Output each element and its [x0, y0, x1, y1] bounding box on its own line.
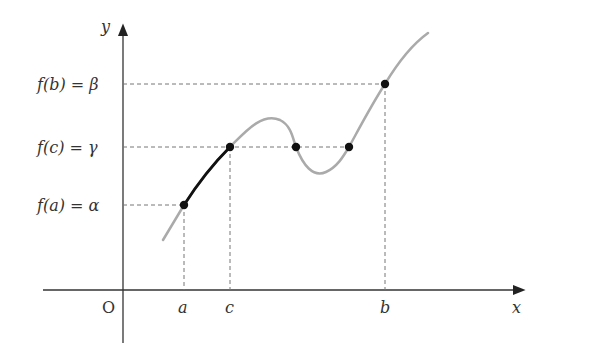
point-p1 — [292, 143, 300, 151]
y-tick-fa: f(a) = α — [36, 196, 100, 215]
highlighted-segment — [184, 147, 230, 205]
x-tick-b: b — [380, 298, 390, 317]
x-tick-a: a — [178, 298, 188, 317]
y-tick-fb: f(b) = β — [36, 75, 98, 94]
graph-diagram: y x O a c b f(b) = β f(c) = γ f(a) = α — [0, 0, 594, 354]
y-axis-label: y — [100, 17, 111, 36]
x-axis-label: x — [512, 298, 521, 317]
guide-lines — [123, 84, 385, 290]
point-a — [180, 201, 188, 209]
points — [180, 80, 389, 209]
point-c — [226, 143, 234, 151]
origin-label: O — [102, 298, 115, 317]
point-b — [381, 80, 389, 88]
function-curve — [163, 33, 428, 240]
point-p2 — [345, 143, 353, 151]
y-tick-fc: f(c) = γ — [36, 138, 98, 157]
x-tick-c: c — [225, 298, 234, 317]
